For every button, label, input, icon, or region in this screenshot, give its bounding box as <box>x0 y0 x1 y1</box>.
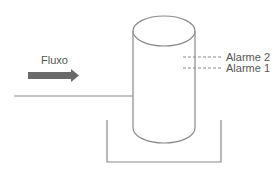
flow-arrow-icon <box>28 69 79 82</box>
alarm-1-label: Alarme 1 <box>226 62 270 74</box>
tank-diagram: Fluxo Alarme 2 Alarme 1 <box>0 0 278 172</box>
cylinder-tank <box>133 16 195 143</box>
flow-label: Fluxo <box>41 54 68 66</box>
